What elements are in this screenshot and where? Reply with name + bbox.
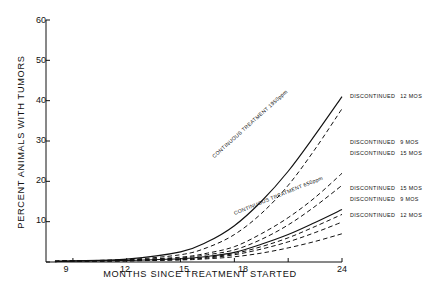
curve-650ppm-continuous-treatment-650ppm xyxy=(55,210,342,262)
plot-area xyxy=(0,0,437,290)
curve-1950ppm-continuous-treatment-1950ppm xyxy=(55,97,342,262)
tumor-incidence-chart: PERCENT ANIMALS WITH TUMORS MONTHS SINCE… xyxy=(0,0,437,290)
data-curves xyxy=(55,97,342,262)
axis-lines xyxy=(46,20,342,262)
curve-1950ppm-discontinued-15-mos xyxy=(55,185,342,261)
curve-1950ppm-discontinued-12-mos xyxy=(55,109,342,261)
curve-1950ppm-discontinued-9-mos xyxy=(55,173,342,261)
